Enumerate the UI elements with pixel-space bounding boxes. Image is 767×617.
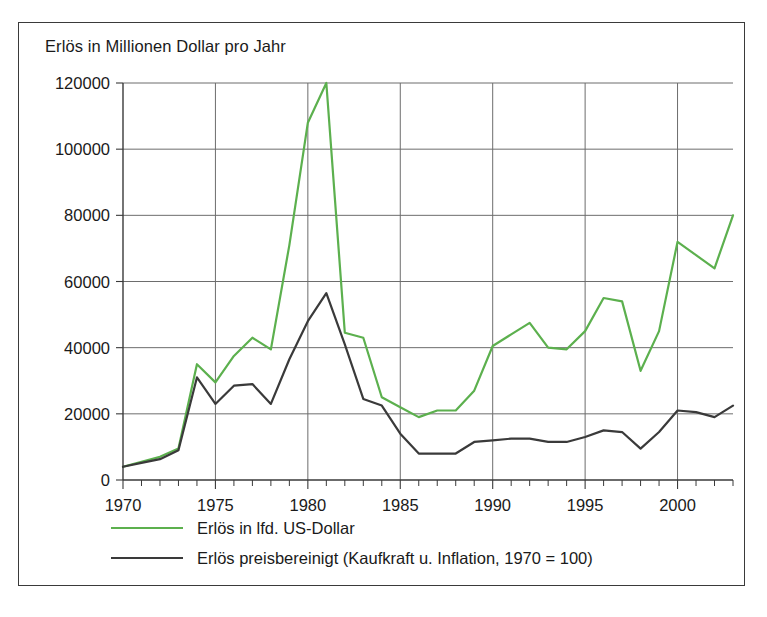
legend-item-label: Erlös in lfd. US-Dollar [197,519,355,538]
y-axis-tick-label: 120000 [55,74,110,92]
x-axis-tick-label: 1975 [197,496,234,514]
series-line-2 [123,293,733,467]
x-axis-tick-label: 1985 [382,496,419,514]
x-axis-tick-label: 1995 [567,496,604,514]
legend-item: Erlös preisbereinigt (Kaufkraft u. Infla… [111,543,744,573]
legend-item: Erlös in lfd. US-Dollar [111,513,744,543]
y-axis-tick-label: 60000 [64,273,110,291]
series-line-1 [123,83,733,467]
y-axis-tick-label: 80000 [64,206,110,224]
x-axis-tick-label: 1990 [474,496,511,514]
series-layer [123,83,733,467]
grid-layer [123,83,733,480]
legend-item-label: Erlös preisbereinigt (Kaufkraft u. Infla… [197,549,593,568]
y-axis-tick-label: 40000 [64,339,110,357]
x-axis-tick-label: 1980 [289,496,326,514]
y-axis-tick-label: 0 [101,471,110,489]
y-axis-tick-label: 20000 [64,405,110,423]
x-axis-tick-label: 1970 [105,496,142,514]
legend-color-swatch [111,527,183,529]
chart-figure-frame: Erlös in Millionen Dollar pro Jahr 02000… [18,22,745,586]
y-axis-tick-label: 100000 [55,140,110,158]
chart-svg: 0200004000060000800001000001200001970197… [19,23,746,587]
x-axis-tick-label: 2000 [659,496,696,514]
axis-labels: 0200004000060000800001000001200001970197… [55,74,696,514]
legend-color-swatch [111,557,183,559]
chart-legend: Erlös in lfd. US-DollarErlös preisberein… [19,513,744,573]
plot-area: 0200004000060000800001000001200001970197… [19,23,746,587]
axis-layer [116,83,733,489]
